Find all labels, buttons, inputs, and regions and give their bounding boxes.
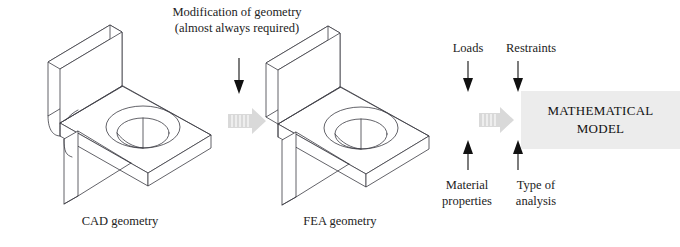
- modification-note: Modification of geometry (almost always …: [157, 4, 317, 36]
- material-properties-line1: Material: [432, 177, 502, 193]
- mathematical-model-line2: MODEL: [577, 121, 625, 137]
- cad-geometry-caption: CAD geometry: [60, 213, 180, 229]
- type-of-analysis-line1: Type of: [505, 177, 567, 193]
- type-of-analysis-label: Type of analysis: [505, 177, 567, 209]
- mathematical-model-line1: MATHEMATICAL: [547, 103, 653, 119]
- down-arrow-restraints-icon: [513, 61, 523, 92]
- modification-note-line2: (almost always required): [157, 20, 317, 36]
- down-arrow-modification-icon: [234, 58, 244, 94]
- loads-label: Loads: [444, 40, 492, 56]
- block-arrow-fea-to-model-icon: [479, 107, 514, 133]
- block-arrow-cad-to-fea-icon: [228, 108, 266, 134]
- mathematical-model-box: MATHEMATICAL MODEL: [521, 91, 680, 149]
- restraints-label: Restraints: [495, 40, 567, 56]
- material-properties-label: Material properties: [432, 177, 502, 209]
- up-arrow-material-properties-icon: [463, 140, 473, 170]
- type-of-analysis-line2: analysis: [505, 193, 567, 209]
- material-properties-line2: properties: [432, 193, 502, 209]
- fea-geometry-caption: FEA geometry: [280, 213, 400, 229]
- down-arrow-loads-icon: [463, 61, 473, 92]
- fea-workflow-diagram: Modification of geometry (almost always …: [0, 0, 680, 247]
- modification-note-line1: Modification of geometry: [157, 4, 317, 20]
